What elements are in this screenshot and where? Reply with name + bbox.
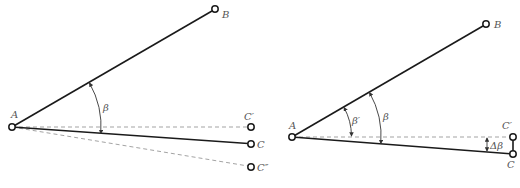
line-a-b xyxy=(12,11,212,127)
beta-angle-arc xyxy=(370,93,382,144)
label-c-prime: C′ xyxy=(244,111,255,122)
point-c xyxy=(510,151,516,157)
point-b xyxy=(483,21,489,27)
label-b: B xyxy=(493,19,501,30)
label-c: C xyxy=(257,139,265,150)
label-c: C xyxy=(507,159,515,170)
point-c-double-prime xyxy=(248,164,254,170)
label-beta: β xyxy=(102,102,109,113)
line-a-c-double-prime-dashed xyxy=(12,127,248,166)
label-a: A xyxy=(10,109,18,120)
line-a-c xyxy=(12,127,248,144)
point-c xyxy=(248,141,254,147)
beta-prime-angle-arc xyxy=(344,108,352,137)
label-delta-beta: Δβ xyxy=(489,140,503,151)
label-b: B xyxy=(221,9,229,20)
label-beta: β xyxy=(382,111,389,122)
beta-angle-arc xyxy=(90,83,102,134)
point-a xyxy=(289,134,295,140)
label-beta-prime: β′ xyxy=(351,115,361,126)
right-diagram: A B C′ C β′ β Δβ xyxy=(288,19,516,170)
left-diagram: A B C′ C C″ β xyxy=(9,6,269,173)
point-b xyxy=(212,6,218,12)
point-a xyxy=(9,124,15,130)
line-a-c xyxy=(292,137,510,154)
point-c-prime xyxy=(248,124,254,130)
label-a: A xyxy=(288,120,296,131)
label-c-prime: C′ xyxy=(502,120,513,131)
point-c-prime xyxy=(510,134,516,140)
label-c-double-prime: C″ xyxy=(257,162,269,173)
angle-correction-figure: A B C′ C C″ β A B C′ C β′ β Δβ xyxy=(0,0,520,188)
